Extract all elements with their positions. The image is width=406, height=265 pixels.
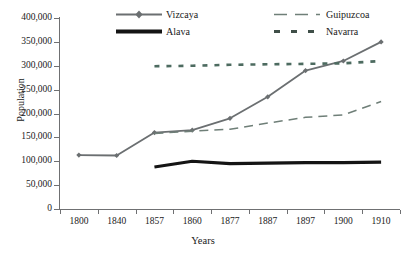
- series-line-vizcaya: [79, 42, 381, 156]
- legend-label-navarra: Navarra: [326, 25, 358, 38]
- legend-swatch-guipuzcoa: [274, 8, 320, 21]
- y-axis-tick-label: 100,000: [21, 156, 52, 166]
- x-axis-tick-label: 1910: [372, 216, 391, 227]
- y-axis-tick-label: 0: [47, 204, 52, 214]
- y-axis-tick-label: 400,000: [21, 13, 52, 23]
- x-axis-tick: [136, 210, 137, 214]
- x-axis-tick-label: 1900: [334, 216, 353, 227]
- y-axis-title: Population: [16, 55, 26, 145]
- x-axis-tick-label: 1857: [145, 216, 164, 227]
- x-axis-tick: [287, 210, 288, 214]
- y-axis-tick: [54, 66, 59, 67]
- x-axis-tick: [98, 210, 99, 214]
- legend-label-vizcaya: Vizcaya: [166, 8, 198, 21]
- x-axis-tick-labels: 180018401857186018771887189719001910: [0, 216, 406, 230]
- series-line-navarra: [154, 61, 381, 66]
- legend-swatch-alava: [116, 25, 162, 38]
- x-axis-tick-label: 1800: [69, 216, 88, 227]
- y-axis-tick: [54, 161, 59, 162]
- legend-swatch-vizcaya: [116, 8, 162, 21]
- data-point-marker-vizcaya: [76, 152, 81, 157]
- y-axis-tick: [54, 42, 59, 43]
- x-axis-title: Years: [0, 235, 406, 246]
- x-axis-tick: [211, 210, 212, 214]
- x-axis-tick-label: 1887: [258, 216, 277, 227]
- y-axis-tick: [54, 18, 59, 19]
- series-line-alava: [154, 161, 381, 167]
- series-line-guipuzcoa: [154, 102, 381, 134]
- y-axis-tick: [54, 185, 59, 186]
- x-axis-tick: [173, 210, 174, 214]
- y-axis-tick: [54, 137, 59, 138]
- population-line-chart: 050,000100,000150,000200,000250,000300,0…: [0, 0, 406, 265]
- y-axis-tick: [54, 209, 59, 210]
- y-axis-tick-label: 350,000: [21, 37, 52, 47]
- legend-swatch-navarra: [274, 25, 320, 38]
- chart-legend: Vizcaya Alava Guipuzcoa Navarra: [116, 8, 376, 40]
- plot-area: [60, 18, 400, 209]
- x-axis-tick: [324, 210, 325, 214]
- x-axis-tick: [362, 210, 363, 214]
- x-axis-tick-label: 1877: [221, 216, 240, 227]
- x-axis-tick: [60, 210, 61, 214]
- x-axis-tick-label: 1840: [107, 216, 126, 227]
- x-axis-tick: [400, 210, 401, 214]
- x-axis-tick: [249, 210, 250, 214]
- legend-label-guipuzcoa: Guipuzcoa: [326, 8, 369, 21]
- y-axis-tick: [54, 114, 59, 115]
- y-axis-tick-label: 50,000: [26, 180, 52, 190]
- legend-label-alava: Alava: [166, 25, 190, 38]
- x-axis-line: [59, 209, 400, 210]
- series-canvas: [60, 18, 400, 209]
- x-axis-tick-label: 1897: [296, 216, 315, 227]
- y-axis-tick: [54, 90, 59, 91]
- x-axis-tick-label: 1860: [183, 216, 202, 227]
